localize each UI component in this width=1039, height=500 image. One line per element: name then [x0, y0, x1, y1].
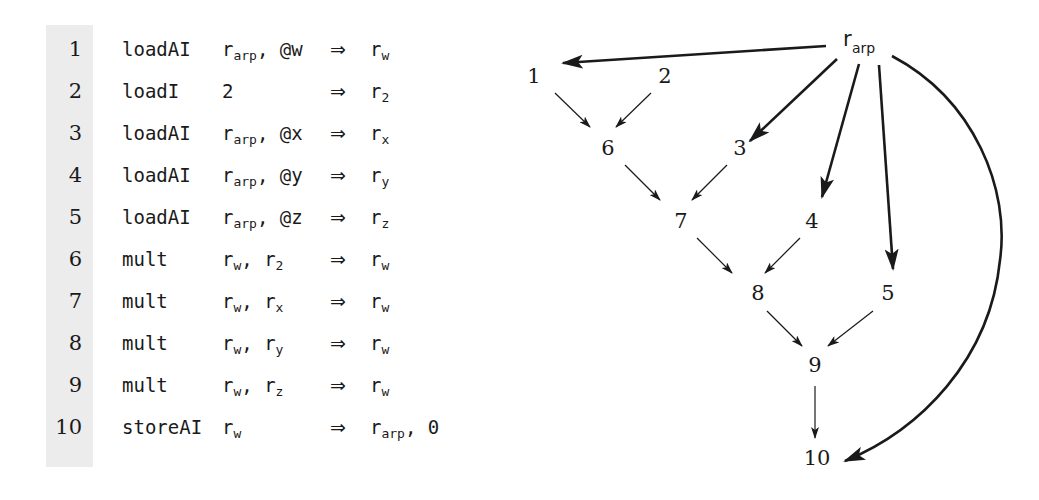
edge-rarp-to-4 — [822, 64, 859, 197]
root-edges — [563, 46, 1002, 461]
dependence-graph: r arp 1 2 6 3 7 4 8 5 9 10 — [0, 0, 1039, 500]
edge-rarp-to-10 — [845, 56, 1002, 461]
node-1: 1 — [527, 64, 540, 88]
edge-6-to-7 — [625, 165, 660, 200]
svg-text:arp: arp — [852, 40, 875, 56]
edge-rarp-to-5 — [879, 65, 893, 269]
node-8: 8 — [751, 281, 764, 305]
svg-text:r: r — [843, 27, 852, 51]
node-6: 6 — [601, 136, 614, 160]
node-2: 2 — [658, 64, 671, 88]
node-9: 9 — [808, 353, 821, 377]
edge-3-to-7 — [692, 165, 727, 200]
edge-2-to-6 — [616, 93, 651, 127]
edge-rarp-to-3 — [750, 59, 837, 141]
edge-1-to-6 — [555, 93, 590, 127]
edge-8-to-9 — [767, 311, 802, 346]
node-5: 5 — [881, 281, 894, 305]
graph-nodes: 1 2 6 3 7 4 8 5 9 10 — [527, 64, 894, 470]
edge-rarp-to-1 — [563, 46, 826, 63]
edge-5-to-9 — [828, 311, 873, 346]
edge-4-to-8 — [765, 238, 800, 273]
edge-7-to-8 — [697, 238, 732, 273]
node-3: 3 — [733, 136, 746, 160]
node-4: 4 — [805, 209, 818, 233]
node-10: 10 — [804, 446, 831, 470]
node-7: 7 — [674, 209, 687, 233]
node-rarp: r arp — [843, 27, 875, 56]
